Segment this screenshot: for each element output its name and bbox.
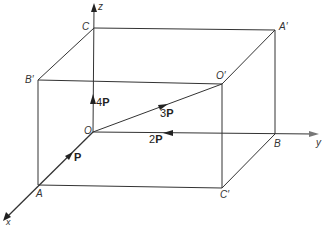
- z-axis-arrow-icon: [91, 3, 97, 12]
- x-axis: [6, 132, 93, 218]
- point-o-label: O: [84, 126, 92, 136]
- point-o-prime-label: O′: [216, 71, 226, 81]
- edge-a-prime-o-prime: [222, 30, 275, 84]
- vector-4p-label: 4P: [96, 97, 109, 108]
- vector-2p-label: 2P: [149, 134, 162, 145]
- point-b-label: B: [274, 139, 281, 149]
- edge-c-b-prime: [38, 28, 94, 80]
- point-c-prime-label: C′: [220, 190, 229, 200]
- z-axis-label: z: [98, 2, 103, 12]
- vector-3p-label: 3P: [160, 108, 173, 119]
- edge-c-a-prime: [94, 28, 275, 30]
- y-axis: [93, 132, 314, 134]
- edge-b-prime-o-prime: [38, 80, 222, 84]
- edge-b-c-prime: [222, 134, 275, 188]
- point-a-prime-label: A′: [279, 22, 288, 32]
- point-c-label: C: [82, 22, 89, 32]
- vector-p-label: P: [74, 152, 81, 163]
- y-axis-label: y: [316, 138, 321, 148]
- point-a-label: A: [36, 189, 43, 199]
- z-axis: [93, 8, 94, 132]
- diagonal-o-o-prime: [93, 84, 222, 132]
- point-b-prime-label: B′: [25, 75, 34, 85]
- edge-a-c-prime: [38, 185, 222, 188]
- vector-2p-arrow-icon: [163, 130, 173, 136]
- x-axis-label: x: [6, 218, 11, 227]
- box-diagram: z y x C A′ B′ O′ O B A C′ 4P 3P 2P P: [0, 0, 325, 227]
